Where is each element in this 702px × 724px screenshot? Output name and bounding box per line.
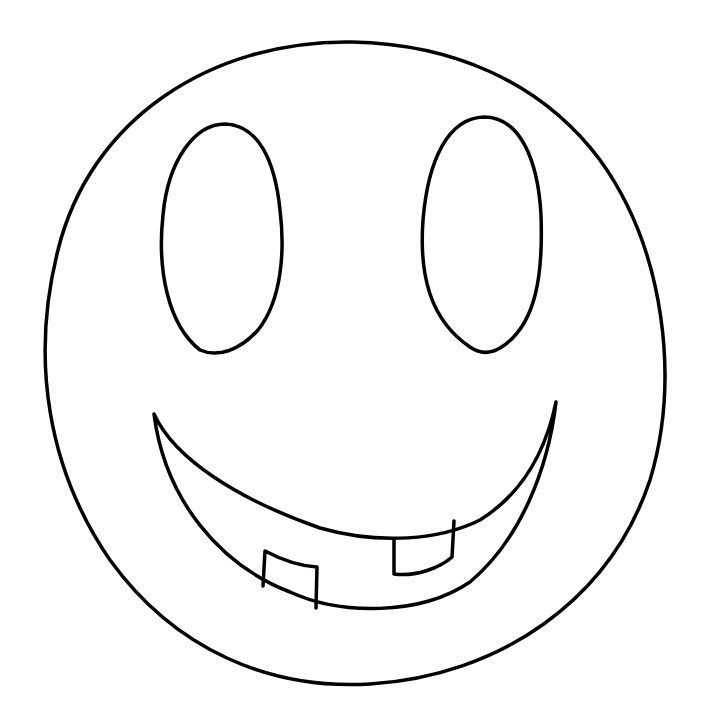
left-eye [161,124,282,353]
face-outline [45,42,665,685]
mouth [154,402,556,609]
tooth-right [394,521,454,575]
right-eye [422,117,541,352]
smiley-drawing: smiley face [0,0,702,724]
